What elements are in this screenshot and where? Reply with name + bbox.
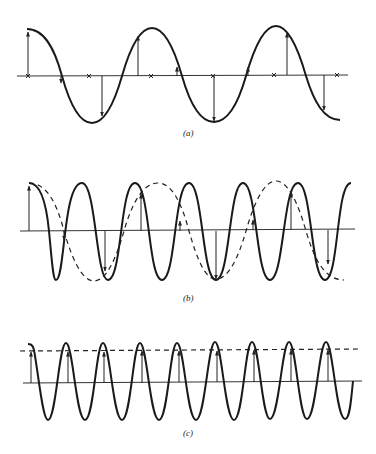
panel-a-label: (a) bbox=[183, 128, 194, 138]
panel-a-samples bbox=[28, 32, 324, 121]
panel-b-label: (b) bbox=[183, 293, 194, 303]
panel-c-alias bbox=[20, 349, 360, 351]
panel-a: (a) bbox=[17, 26, 348, 138]
aliasing-figure: (a) (b) bbox=[0, 0, 376, 454]
panel-b: (b) bbox=[20, 181, 355, 303]
panel-c-label: (c) bbox=[183, 428, 193, 438]
panel-a-signal bbox=[27, 26, 340, 123]
panel-b-axis bbox=[20, 229, 355, 231]
panel-c: (c) bbox=[20, 342, 362, 438]
